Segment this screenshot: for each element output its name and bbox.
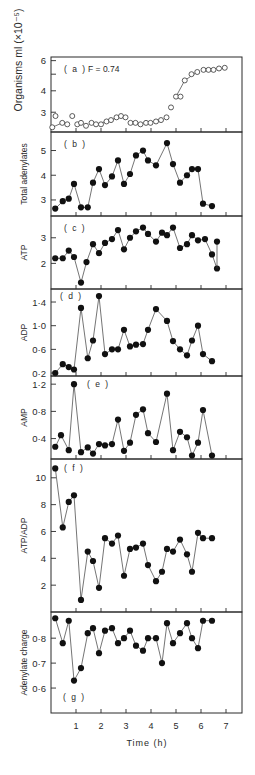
y-tick-label: 0·4 — [32, 433, 46, 444]
data-point — [209, 618, 215, 624]
y-axis-label: ATP — [19, 244, 29, 260]
panel-f: 108642ATP/ADP( f ) — [19, 459, 242, 612]
data-point — [164, 391, 170, 397]
data-point — [200, 535, 206, 541]
data-point — [121, 246, 127, 252]
data-point — [71, 677, 77, 683]
data-point — [189, 166, 195, 172]
data-point — [202, 236, 208, 242]
y-tick-label: 1·4 — [32, 297, 46, 308]
data-point — [209, 358, 215, 364]
data-point — [78, 204, 84, 210]
data-point — [153, 239, 159, 245]
data-point — [109, 236, 115, 242]
data-point — [164, 115, 169, 120]
panel-g: 0·80·70·6Adenylate charge( g ) — [19, 612, 242, 713]
panel-label: ( e ) — [87, 379, 110, 389]
data-point — [96, 585, 102, 591]
data-point — [214, 239, 220, 245]
data-point — [159, 569, 165, 575]
data-point — [109, 540, 115, 546]
data-point — [170, 338, 176, 344]
data-point — [209, 251, 215, 257]
y-tick-label: 1·2 — [32, 379, 46, 390]
data-point — [195, 440, 201, 446]
y-tick-label: 2 — [41, 580, 46, 591]
data-point — [127, 440, 133, 446]
data-point — [153, 635, 159, 641]
data-point — [60, 255, 66, 261]
data-point — [184, 434, 190, 440]
y-tick-label: 0·6 — [32, 683, 46, 694]
data-point — [195, 70, 200, 75]
data-point — [102, 240, 108, 246]
y-tick-label: 4 — [41, 553, 46, 564]
data-point — [138, 122, 143, 127]
data-point — [177, 630, 183, 636]
panel-a: 643Organisms ml (×10⁻⁵)( a )F = 0.74 — [12, 9, 242, 132]
x-tick-label: 5 — [173, 721, 178, 731]
data-point — [52, 615, 58, 621]
data-point — [200, 407, 206, 413]
data-point — [189, 232, 195, 238]
panel-label: ( g ) — [63, 692, 86, 702]
data-point — [115, 640, 121, 646]
data-point — [127, 171, 133, 177]
panel-label: ( b ) — [64, 139, 87, 149]
data-point — [52, 370, 58, 376]
data-point — [209, 535, 215, 541]
data-point — [189, 635, 195, 641]
data-point — [52, 255, 58, 261]
data-point — [164, 232, 170, 238]
data-point — [109, 346, 115, 352]
data-point — [140, 648, 146, 654]
y-tick-label: 4 — [41, 170, 46, 181]
y-tick-label: 5 — [41, 145, 46, 156]
data-point — [90, 558, 96, 564]
y-tick-label: 2 — [41, 258, 46, 269]
data-point — [115, 532, 121, 538]
data-point — [78, 665, 84, 671]
data-point — [127, 628, 133, 634]
data-point — [222, 65, 227, 70]
data-point — [85, 444, 91, 450]
data-point — [195, 530, 201, 536]
data-point — [71, 366, 77, 372]
panel-label: ( a ) — [64, 64, 87, 74]
data-point — [133, 342, 139, 348]
y-tick-label: 8 — [41, 499, 46, 510]
data-point — [145, 635, 151, 641]
data-point — [109, 625, 115, 631]
data-point — [164, 318, 170, 324]
data-point — [121, 327, 127, 333]
data-point — [90, 450, 96, 456]
data-point — [153, 162, 159, 168]
data-point — [145, 327, 151, 333]
data-point — [52, 465, 58, 471]
data-point — [115, 157, 121, 163]
x-tick-label: 7 — [223, 721, 228, 731]
panel-label: ( c ) — [64, 223, 86, 233]
y-tick-label: 0·8 — [32, 406, 46, 417]
data-point — [78, 305, 84, 311]
data-point — [164, 620, 170, 626]
data-point — [140, 341, 146, 347]
data-point — [96, 166, 102, 172]
data-point — [153, 578, 159, 584]
data-point — [60, 640, 66, 646]
data-point — [184, 551, 190, 557]
data-point — [153, 306, 159, 312]
x-tick-label: 6 — [198, 721, 203, 731]
data-point — [164, 140, 170, 146]
chart-canvas: 643Organisms ml (×10⁻⁵)( a )F = 0.74543T… — [0, 0, 255, 775]
y-axis-label: AMP — [19, 408, 29, 427]
y-axis-label: Adenylate charge — [19, 629, 29, 695]
data-point — [109, 118, 114, 123]
y-tick-label: 3 — [41, 232, 46, 243]
data-point — [145, 430, 151, 436]
data-point — [79, 120, 84, 125]
data-point — [66, 447, 72, 453]
y-tick-label: 10 — [35, 472, 46, 483]
panel-b: 543Total adenylates( b ) — [19, 132, 242, 216]
data-point — [121, 181, 127, 187]
